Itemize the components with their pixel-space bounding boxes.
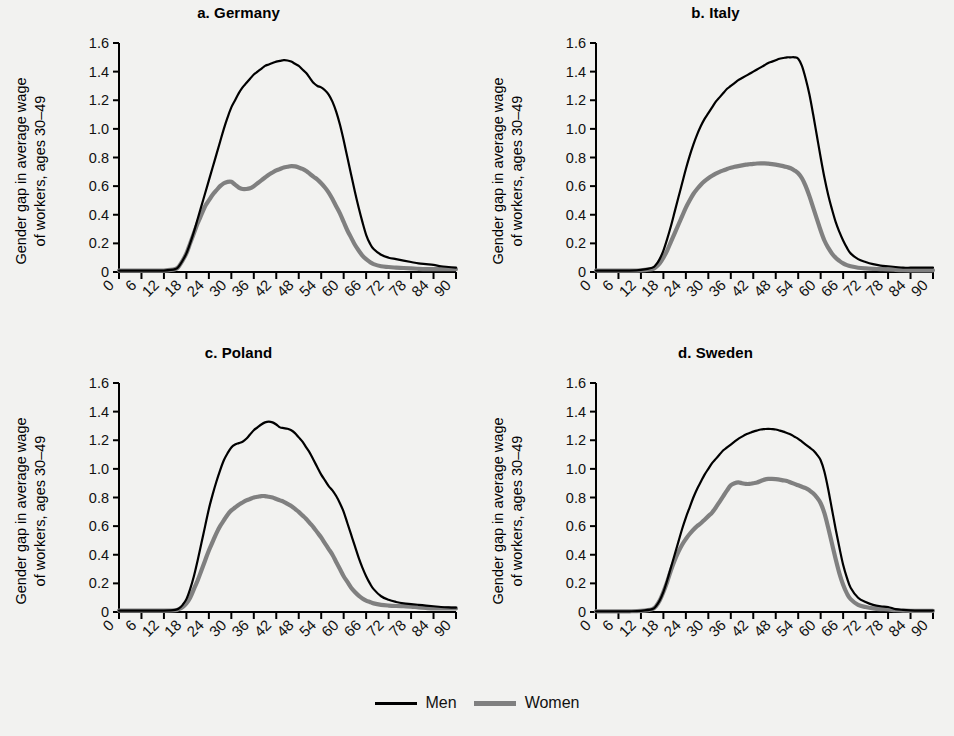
y-tick-label: 0.8 — [566, 150, 586, 166]
y-tick-label: 1.6 — [566, 375, 586, 391]
y-tick-label: 1.0 — [89, 461, 109, 477]
x-tick-label: 24 — [660, 276, 684, 300]
y-tick-label: 0.2 — [89, 575, 109, 591]
x-tick-label: 30 — [206, 616, 230, 640]
y-tick-label: 0.8 — [89, 150, 109, 166]
legend-swatch-men-icon — [375, 702, 417, 705]
x-tick-label: 36 — [705, 276, 729, 300]
y-tick-label: 0.6 — [566, 518, 586, 534]
y-tick-label: 0.2 — [566, 235, 586, 251]
x-tick-label: 54 — [296, 276, 320, 300]
y-tick-label: 0.4 — [566, 547, 586, 563]
panel-sweden: d. Sweden Gender gap in average wage of … — [477, 340, 954, 670]
x-tick-label: 66 — [817, 616, 841, 640]
x-tick-label: 36 — [228, 616, 252, 640]
y-tick-label: 1.6 — [566, 35, 586, 51]
x-tick-label: 6 — [599, 276, 617, 294]
y-tick-label: 1.6 — [89, 375, 109, 391]
panel-italy: b. Italy Gender gap in average wage of w… — [477, 0, 954, 330]
y-tick-label: 0.2 — [566, 575, 586, 591]
x-tick-label: 72 — [363, 616, 387, 640]
legend-entry-women: Women — [474, 694, 580, 712]
y-tick-label: 1.0 — [566, 461, 586, 477]
y-tick-label: 0.4 — [566, 207, 586, 223]
x-tick-label: 18 — [161, 276, 185, 300]
x-tick-label: 18 — [638, 616, 662, 640]
y-tick-label: 0.6 — [566, 178, 586, 194]
y-tick-label: 1.0 — [566, 121, 586, 137]
x-tick-label: 42 — [728, 616, 752, 640]
x-tick-label: 66 — [817, 276, 841, 300]
x-tick-label: 36 — [705, 616, 729, 640]
y-tick-label: 1.0 — [89, 121, 109, 137]
legend-entry-men: Men — [375, 694, 457, 712]
x-tick-label: 60 — [795, 276, 819, 300]
chart-legend: Men Women — [0, 686, 954, 720]
panel-germany: a. Germany Gender gap in average wage of… — [0, 0, 477, 330]
x-tick-label: 30 — [683, 616, 707, 640]
x-tick-label: 12 — [138, 276, 162, 300]
x-tick-label: 30 — [206, 276, 230, 300]
x-tick-label: 54 — [296, 616, 320, 640]
x-tick-label: 66 — [340, 276, 364, 300]
x-tick-label: 18 — [638, 276, 662, 300]
x-tick-label: 90 — [430, 276, 454, 300]
x-tick-label: 60 — [318, 276, 342, 300]
y-tick-label: 1.2 — [89, 432, 109, 448]
y-tick-label: 1.2 — [566, 432, 586, 448]
x-tick-label: 84 — [885, 276, 909, 300]
plot-area-poland: 00.20.40.60.81.01.21.41.6061218243036424… — [0, 340, 477, 670]
x-tick-label: 72 — [840, 616, 864, 640]
x-tick-label: 48 — [750, 276, 774, 300]
plot-area-sweden: 00.20.40.60.81.01.21.41.6061218243036424… — [477, 340, 954, 670]
x-tick-label: 72 — [363, 276, 387, 300]
x-tick-label: 84 — [408, 616, 432, 640]
x-tick-label: 48 — [273, 616, 297, 640]
x-tick-label: 54 — [773, 616, 797, 640]
series-line-women — [596, 479, 933, 611]
x-tick-label: 42 — [251, 616, 275, 640]
x-tick-label: 60 — [318, 616, 342, 640]
x-tick-label: 6 — [599, 616, 617, 634]
plot-area-italy: 00.20.40.60.81.01.21.41.6061218243036424… — [477, 0, 954, 330]
x-tick-label: 42 — [251, 276, 275, 300]
legend-label-men: Men — [426, 694, 457, 712]
y-tick-label: 1.4 — [566, 404, 586, 420]
legend-swatch-women-icon — [474, 701, 516, 706]
legend-label-women: Women — [525, 694, 580, 712]
x-tick-label: 24 — [660, 616, 684, 640]
y-tick-label: 1.4 — [566, 64, 586, 80]
plot-area-germany: 00.20.40.60.81.01.21.41.6061218243036424… — [0, 0, 477, 330]
y-tick-label: 1.4 — [89, 404, 109, 420]
x-tick-label: 24 — [183, 616, 207, 640]
series-line-women — [596, 163, 933, 270]
series-line-men — [119, 422, 456, 611]
x-tick-label: 36 — [228, 276, 252, 300]
y-tick-label: 0.8 — [89, 490, 109, 506]
x-tick-label: 48 — [750, 616, 774, 640]
y-tick-label: 1.2 — [566, 92, 586, 108]
x-tick-label: 90 — [430, 616, 454, 640]
x-tick-label: 78 — [385, 276, 409, 300]
y-tick-label: 0.8 — [566, 490, 586, 506]
x-tick-label: 6 — [122, 276, 140, 294]
x-tick-label: 60 — [795, 616, 819, 640]
y-tick-label: 0.6 — [89, 178, 109, 194]
y-tick-label: 1.6 — [89, 35, 109, 51]
x-tick-label: 66 — [340, 616, 364, 640]
panel-poland: c. Poland Gender gap in average wage of … — [0, 340, 477, 670]
x-tick-label: 72 — [840, 276, 864, 300]
x-tick-label: 18 — [161, 616, 185, 640]
x-tick-label: 84 — [885, 616, 909, 640]
y-tick-label: 0.2 — [89, 235, 109, 251]
x-tick-label: 24 — [183, 276, 207, 300]
x-tick-label: 78 — [385, 616, 409, 640]
y-tick-label: 1.2 — [89, 92, 109, 108]
x-tick-label: 12 — [615, 616, 639, 640]
x-tick-label: 78 — [862, 276, 886, 300]
x-tick-label: 84 — [408, 276, 432, 300]
y-tick-label: 0.4 — [89, 207, 109, 223]
y-tick-label: 1.4 — [89, 64, 109, 80]
x-tick-label: 90 — [907, 276, 931, 300]
x-tick-label: 90 — [907, 616, 931, 640]
